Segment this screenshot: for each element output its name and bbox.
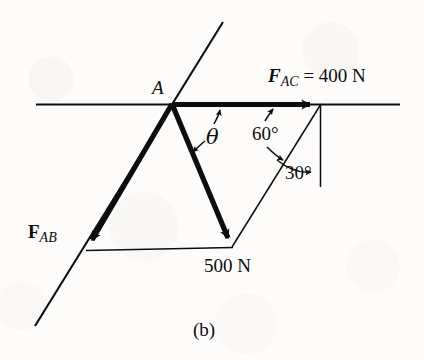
angle-60-label: 60°	[252, 124, 279, 143]
vector-diagram-canvas	[0, 0, 424, 360]
force-fac-symbol: F	[268, 65, 281, 86]
force-diagram-figure: A FAC = 400 N θ 60° 30° FAB 500 N (b)	[0, 0, 424, 360]
force-fac-label: FAC = 400 N	[268, 66, 366, 88]
angle-60-arc	[267, 147, 283, 160]
theta-leader-upper	[214, 110, 220, 124]
angle-theta-label: θ	[206, 127, 219, 148]
point-label-a: A	[152, 78, 164, 97]
theta-leader-lower	[193, 141, 205, 152]
resultant-magnitude-label: 500 N	[204, 256, 251, 275]
angle-30-label: 30°	[285, 163, 312, 182]
force-fab-symbol: F	[28, 221, 40, 242]
force-fab-label: FAB	[28, 222, 57, 244]
vector-fab	[92, 104, 172, 240]
force-fac-subscript: AC	[281, 73, 299, 89]
figure-caption: (b)	[193, 320, 215, 339]
vector-resultant-500n	[172, 104, 228, 238]
force-fab-subscript: AB	[40, 229, 57, 245]
parallelogram-base-line	[86, 248, 233, 251]
angle-60-leader	[265, 109, 273, 121]
force-fac-magnitude: = 400 N	[303, 65, 365, 86]
